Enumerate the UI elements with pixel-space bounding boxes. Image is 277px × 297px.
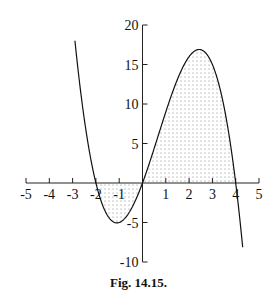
- x-tick-label: 2: [186, 187, 193, 202]
- figure-caption: Fig. 14.15.: [0, 275, 277, 291]
- y-tick-label: -10: [120, 255, 139, 270]
- x-tick-label: 1: [162, 187, 169, 202]
- y-tick-label: 20: [125, 18, 139, 33]
- x-tick-label: -4: [43, 187, 55, 202]
- y-tick-label: 10: [125, 97, 139, 112]
- y-tick-label: 15: [125, 58, 139, 73]
- x-tick-label: -2: [90, 187, 102, 202]
- x-tick-label: -5: [20, 187, 32, 202]
- x-tick-label: 4: [232, 187, 239, 202]
- x-tick-label: 5: [256, 187, 263, 202]
- x-tick-label: 3: [209, 187, 216, 202]
- y-tick-labels: -10-55101520: [120, 18, 139, 270]
- x-tick-label: -3: [67, 187, 79, 202]
- x-tick-labels: -5-4-3-2-112345: [20, 187, 262, 202]
- y-tick-label: 5: [132, 137, 139, 152]
- y-tick-label: -5: [127, 216, 139, 231]
- shaded-region: [143, 49, 236, 183]
- function-plot: -5-4-3-2-112345 -10-55101520: [0, 0, 277, 297]
- x-tick-label: -1: [113, 187, 125, 202]
